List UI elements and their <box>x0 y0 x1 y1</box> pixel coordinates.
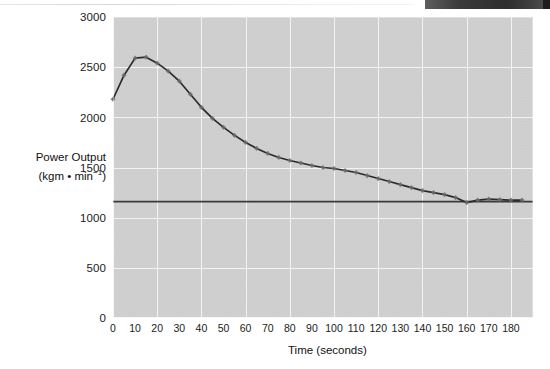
dark-scan-bar-end <box>543 0 550 9</box>
power-output-curve <box>113 57 522 202</box>
data-point-marker <box>110 97 115 102</box>
plot-area <box>113 17 533 318</box>
y-tick-label: 3000 <box>60 11 106 23</box>
data-point-marker <box>343 168 348 173</box>
data-point-marker <box>464 200 469 205</box>
data-point-markers <box>110 55 524 206</box>
y-tick-label: 2500 <box>60 61 106 73</box>
y-tick-label: 500 <box>60 262 106 274</box>
x-axis-title: Time (seconds) <box>288 344 367 356</box>
data-point-marker <box>442 192 447 197</box>
data-point-marker <box>365 173 370 178</box>
data-point-marker <box>287 158 292 163</box>
data-point-marker <box>409 185 414 190</box>
data-point-marker <box>453 195 458 200</box>
data-point-marker <box>276 155 281 160</box>
data-point-marker <box>265 151 270 156</box>
chart-page: Power Output (kgm • min−1) 3000 2500 200… <box>0 0 550 369</box>
data-point-marker <box>431 190 436 195</box>
data-point-marker <box>354 170 359 175</box>
data-point-marker <box>420 188 425 193</box>
y-tick-label: 2000 <box>60 112 106 124</box>
y-tick-label: 1000 <box>60 212 106 224</box>
dark-scan-bar <box>425 0 543 9</box>
data-point-marker <box>398 182 403 187</box>
series-svg <box>113 17 533 318</box>
data-point-marker <box>320 165 325 170</box>
data-point-marker <box>387 179 392 184</box>
y-tick-label: 1500 <box>60 162 106 174</box>
data-point-marker <box>376 176 381 181</box>
page-scan-artifact <box>0 0 550 11</box>
data-point-marker <box>331 166 336 171</box>
x-tick-label: 180 <box>496 322 526 334</box>
data-point-marker <box>298 160 303 165</box>
data-point-marker <box>309 163 314 168</box>
